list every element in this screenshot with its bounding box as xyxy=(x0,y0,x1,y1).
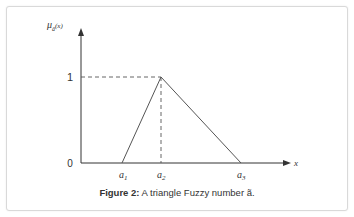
y-axis-label: μã(x) xyxy=(46,19,63,32)
membership-triangle xyxy=(122,77,241,163)
y-tick-0: 0 xyxy=(67,158,73,169)
y-tick-1: 1 xyxy=(67,71,73,83)
x-tick-a1: a1 xyxy=(119,169,128,182)
figure-caption: Figure 2: A triangle Fuzzy number ã. xyxy=(0,187,354,198)
x-tick-a2: a2 xyxy=(157,169,166,182)
caption-text: A triangle Fuzzy number ã. xyxy=(140,187,255,198)
x-axis-arrow-icon xyxy=(283,160,291,166)
y-axis-arrow-icon xyxy=(78,28,84,36)
caption-label: Figure 2: xyxy=(99,187,139,198)
x-axis-label: x xyxy=(293,158,298,168)
x-tick-a3: a3 xyxy=(237,169,246,182)
fuzzy-number-diagram: μã(x) 1 0 a1 a2 a3 x xyxy=(0,0,354,217)
